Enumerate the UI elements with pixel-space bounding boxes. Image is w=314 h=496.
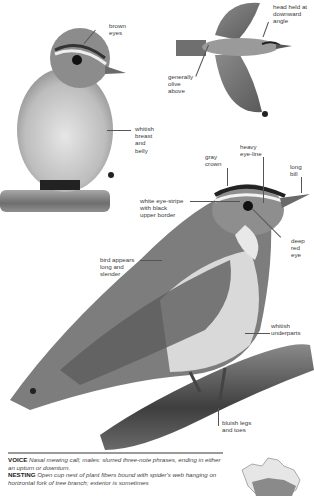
perched-front-bird (0, 28, 126, 212)
voice-text: Nasal mewing call; males: slurred three-… (8, 456, 221, 471)
leader-line (107, 130, 131, 131)
label-bluish-legs: bluish legs and toes (222, 419, 251, 433)
nesting-text: Open cup nest of plant fibers bound with… (8, 471, 216, 486)
leader-line (227, 168, 228, 186)
section-rule (8, 452, 223, 454)
label-deep-red-eye: deep red eye (291, 237, 305, 259)
flight-symbol (262, 111, 268, 117)
male-female-symbol (108, 172, 114, 178)
leader-line (263, 157, 264, 203)
leader-line (140, 260, 162, 261)
label-olive-above: generally olive above (168, 73, 193, 95)
nesting-heading: NESTING (8, 471, 36, 478)
label-whitish-underparts: whitish underparts (271, 322, 301, 336)
label-heavy-eye-line: heavy eye-line (240, 143, 262, 157)
label-long-slender: bird appears long and slender (100, 256, 134, 278)
side-symbol (30, 388, 36, 394)
info-text: VOICE Nasal mewing call; males: slurred … (8, 456, 223, 486)
leader-line (245, 333, 270, 334)
bird-illustrations (0, 0, 314, 496)
label-white-eye-stripe: white eye-stripe with black upper border (140, 197, 183, 219)
leader-line (190, 201, 240, 202)
voice-heading: VOICE (8, 456, 27, 463)
leader-line (301, 177, 302, 193)
leader-line (218, 408, 219, 426)
label-long-bill: long bill (290, 163, 302, 177)
label-gray-crown: gray crown (205, 153, 222, 167)
label-head-angle: head held at downward angle (273, 3, 307, 25)
range-map (238, 456, 304, 496)
label-brown-eyes: brown eyes (109, 22, 126, 36)
label-whitish-breast: whitish breast and belly (135, 125, 154, 154)
